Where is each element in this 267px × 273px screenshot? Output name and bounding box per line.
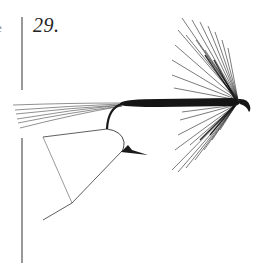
tail-fibers [13, 103, 122, 128]
hook-barb [121, 145, 148, 155]
gape-gauge-line [43, 137, 72, 203]
hackle-fibers [172, 18, 238, 172]
fly-illustration [0, 0, 267, 273]
hook-eye [238, 99, 250, 112]
fly-body [120, 98, 240, 107]
hook [43, 104, 124, 220]
